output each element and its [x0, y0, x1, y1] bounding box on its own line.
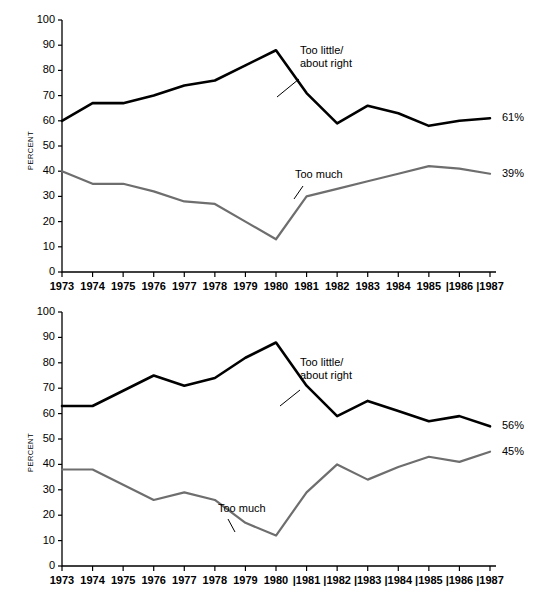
x-axis-tick-label: 1980 — [261, 280, 291, 292]
x-axis-tick-label: |1987 — [475, 574, 505, 586]
series-line-too-much — [62, 166, 490, 239]
annotation-leader-line-low — [228, 519, 235, 532]
x-axis-tick-label: 1977 — [169, 280, 199, 292]
series-line-too-little-about-right — [62, 342, 490, 426]
y-axis-tick-label: 80 — [43, 356, 55, 368]
chart-panel-bottom — [0, 300, 538, 604]
x-axis-tick-label: 1980 — [261, 574, 291, 586]
annotation-line-2: about right — [300, 369, 352, 382]
plot-area — [0, 300, 538, 604]
annotation-too-little-about-right: Too little/about right — [300, 356, 352, 381]
y-axis-tick-label: 10 — [43, 534, 55, 546]
series-line-too-much — [62, 452, 490, 536]
y-axis-tick-label: 100 — [37, 305, 55, 317]
x-axis-tick-label: 1985 — [414, 280, 444, 292]
x-axis-tick-label: 1982 — [322, 280, 352, 292]
annotation-leader-line-high — [280, 390, 300, 406]
annotation-too-much: Too much — [295, 168, 343, 181]
x-axis-tick-label: 1983 — [353, 280, 383, 292]
y-axis-tick-label: 50 — [43, 139, 55, 151]
x-axis-tick-label: |1986 — [444, 280, 474, 292]
x-axis-tick-label: |1983 — [353, 574, 383, 586]
annotation-too-little-about-right: Too little/about right — [300, 44, 352, 69]
y-axis-tick-label: 0 — [49, 265, 55, 277]
end-label-low: 45% — [502, 445, 524, 457]
x-axis-tick-label: 1973 — [47, 280, 77, 292]
x-axis-tick-label: |1987 — [475, 280, 505, 292]
x-axis-tick-label: 1981 — [292, 280, 322, 292]
y-axis-tick-label: 60 — [43, 114, 55, 126]
x-axis-tick-label: 1974 — [78, 574, 108, 586]
x-axis-tick-label: 1976 — [139, 574, 169, 586]
y-axis-tick-label: 70 — [43, 89, 55, 101]
y-axis-title: PERCENT — [26, 433, 35, 472]
annotation-line-1: Too little/ — [300, 44, 352, 57]
chart-panel-top — [0, 0, 538, 300]
end-label-high: 56% — [502, 419, 524, 431]
x-axis-tick-label: |1986 — [444, 574, 474, 586]
annotation-too-much: Too much — [218, 502, 266, 515]
x-axis-tick-label: 1975 — [108, 280, 138, 292]
annotation-leader-line-low — [294, 186, 303, 199]
y-axis-tick-label: 90 — [43, 330, 55, 342]
y-axis-tick-label: 20 — [43, 508, 55, 520]
annotation-line-2: about right — [300, 57, 352, 70]
x-axis-tick-label: 1979 — [230, 574, 260, 586]
series-line-too-little-about-right — [62, 50, 490, 126]
x-axis-tick-label: 1975 — [108, 574, 138, 586]
y-axis-tick-label: 70 — [43, 381, 55, 393]
y-axis-tick-label: 60 — [43, 407, 55, 419]
y-axis-tick-label: 40 — [43, 457, 55, 469]
x-axis-tick-label: |1982 — [322, 574, 352, 586]
x-axis-tick-label: 1978 — [200, 280, 230, 292]
x-axis-tick-label: 1978 — [200, 574, 230, 586]
x-axis-tick-label: |1985 — [414, 574, 444, 586]
end-label-low: 39% — [502, 167, 524, 179]
end-label-high: 61% — [502, 111, 524, 123]
x-axis-tick-label: 1979 — [230, 280, 260, 292]
x-axis-tick-label: 1984 — [383, 280, 413, 292]
y-axis-tick-label: 100 — [37, 13, 55, 25]
annotation-leader-line-high — [277, 79, 299, 97]
y-axis-tick-label: 40 — [43, 164, 55, 176]
plot-area — [0, 0, 538, 300]
x-axis-tick-label: 1976 — [139, 280, 169, 292]
annotation-line-1: Too little/ — [300, 356, 352, 369]
x-axis-tick-label: 1973 — [47, 574, 77, 586]
x-axis-tick-label: 1974 — [78, 280, 108, 292]
x-axis-tick-label: |1984 — [383, 574, 413, 586]
y-axis-title: PERCENT — [26, 131, 35, 170]
y-axis-tick-label: 30 — [43, 189, 55, 201]
x-axis-tick-label: |1981 — [292, 574, 322, 586]
y-axis-tick-label: 30 — [43, 483, 55, 495]
y-axis-tick-label: 50 — [43, 432, 55, 444]
axis-spine — [62, 312, 496, 566]
y-axis-tick-label: 90 — [43, 38, 55, 50]
y-axis-tick-label: 20 — [43, 215, 55, 227]
x-axis-tick-label: 1977 — [169, 574, 199, 586]
y-axis-tick-label: 0 — [49, 559, 55, 571]
y-axis-tick-label: 80 — [43, 63, 55, 75]
y-axis-tick-label: 10 — [43, 240, 55, 252]
